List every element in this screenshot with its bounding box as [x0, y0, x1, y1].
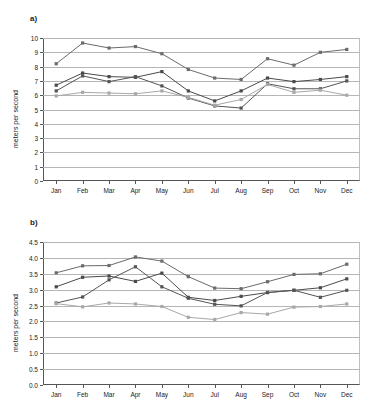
y-axis-tick-label: 3.0 [11, 286, 38, 293]
data-point-marker [240, 295, 243, 298]
data-point-marker [345, 48, 348, 51]
y-axis-tick-label: 3.5 [11, 270, 38, 277]
data-point-marker [345, 94, 348, 97]
data-point-marker [160, 272, 163, 275]
x-axis-tick-label: Jan [51, 391, 61, 398]
data-point-marker [134, 92, 137, 95]
x-axis-tick-mark [241, 181, 242, 184]
data-point-marker [345, 263, 348, 266]
x-axis-tick-label: Jun [183, 391, 193, 398]
data-point-marker [81, 91, 84, 94]
x-axis-tick-mark [135, 385, 136, 388]
x-axis-tick-mark [188, 181, 189, 184]
chart-panel-b: b) meters per second 0.00.51.01.52.02.53… [0, 202, 373, 404]
y-axis-tick-mark [40, 181, 43, 182]
x-axis-tick-label: Jan [51, 187, 61, 194]
data-point-marker [55, 302, 58, 305]
data-point-marker [213, 76, 216, 79]
data-point-marker [319, 78, 322, 81]
x-axis-tick-mark [294, 385, 295, 388]
y-axis-tick-label: 6 [11, 92, 38, 99]
data-point-marker [292, 87, 295, 90]
series-series-4 [55, 83, 349, 107]
data-point-marker [160, 89, 163, 92]
x-axis-tick-label: Aug [235, 391, 247, 398]
x-axis-tick-mark [294, 181, 295, 184]
y-axis-tick-label: 10 [11, 35, 38, 42]
data-point-marker [134, 255, 137, 258]
panel-b-plot-area [43, 242, 360, 385]
x-axis-tick-label: Sep [262, 187, 274, 194]
data-point-marker [160, 70, 163, 73]
data-point-marker [292, 91, 295, 94]
series-layer [43, 38, 360, 181]
data-point-marker [55, 62, 58, 65]
data-point-marker [240, 287, 243, 290]
data-point-marker [240, 78, 243, 81]
data-point-marker [213, 104, 216, 107]
x-axis-tick-label: Jul [211, 187, 219, 194]
data-point-marker [81, 41, 84, 44]
x-axis-tick-mark [162, 181, 163, 184]
data-point-marker [160, 52, 163, 55]
series-line [56, 72, 347, 101]
y-axis-tick-label: 4.0 [11, 254, 38, 261]
x-axis-tick-label: Feb [77, 187, 88, 194]
y-axis-tick-label: 3 [11, 135, 38, 142]
x-axis-tick-label: Nov [315, 391, 327, 398]
data-point-marker [319, 286, 322, 289]
data-point-marker [266, 76, 269, 79]
y-axis-tick-label: 4.5 [11, 239, 38, 246]
series-layer [43, 242, 360, 385]
y-axis-tick-label: 4 [11, 120, 38, 127]
y-axis-tick-label: 0 [11, 178, 38, 185]
data-point-marker [55, 84, 58, 87]
data-point-marker [240, 311, 243, 314]
y-axis-tick-label: 1 [11, 163, 38, 170]
series-line [56, 273, 347, 300]
data-point-marker [160, 259, 163, 262]
x-axis-tick-mark [241, 385, 242, 388]
series-series-1 [55, 255, 349, 290]
data-point-marker [107, 278, 110, 281]
data-point-marker [81, 71, 84, 74]
x-axis-tick-mark [268, 181, 269, 184]
data-point-marker [160, 84, 163, 87]
data-point-marker [213, 99, 216, 102]
series-series-3 [55, 265, 349, 307]
data-point-marker [107, 46, 110, 49]
data-point-marker [160, 285, 163, 288]
data-point-marker [266, 291, 269, 294]
data-point-marker [55, 89, 58, 92]
data-point-marker [187, 316, 190, 319]
data-point-marker [81, 74, 84, 77]
data-point-marker [81, 305, 84, 308]
data-point-marker [319, 305, 322, 308]
y-axis-tick-label: 2 [11, 149, 38, 156]
series-series-4 [55, 301, 349, 321]
panel-a-plot-area [43, 38, 360, 181]
data-point-marker [187, 89, 190, 92]
x-axis-tick-mark [188, 385, 189, 388]
data-point-marker [292, 289, 295, 292]
data-point-marker [107, 301, 110, 304]
x-axis-tick-mark [320, 181, 321, 184]
data-point-marker [213, 299, 216, 302]
x-axis-tick-mark [83, 181, 84, 184]
data-point-marker [187, 96, 190, 99]
y-axis-tick-label: 1.0 [11, 350, 38, 357]
y-axis-tick-label: 9 [11, 49, 38, 56]
x-axis-tick-label: Sep [262, 391, 274, 398]
data-point-marker [160, 305, 163, 308]
x-axis-tick-label: Jun [183, 187, 193, 194]
series-line [56, 43, 347, 79]
data-point-marker [345, 302, 348, 305]
chart-panel-a: a) meters per second 012345678910JanFebM… [0, 0, 373, 202]
data-point-marker [345, 79, 348, 82]
data-point-marker [319, 296, 322, 299]
data-point-marker [240, 106, 243, 109]
x-axis-tick-mark [215, 385, 216, 388]
x-axis-tick-label: May [156, 187, 168, 194]
y-axis-tick-label: 1.5 [11, 334, 38, 341]
data-point-marker [81, 264, 84, 267]
